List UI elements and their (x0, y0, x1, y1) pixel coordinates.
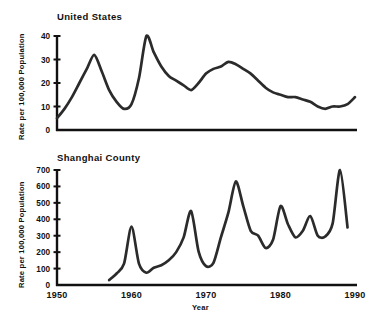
x-tick-label: 1950 (46, 290, 67, 300)
y-tick-label: 100 (20, 264, 50, 273)
figure-two-panel-line-chart: United States Rate per 100,000 Populatio… (0, 0, 373, 323)
y-tick-label: 0 (20, 281, 50, 290)
x-tick-label: 1960 (121, 290, 142, 300)
x-tick-label: 1970 (195, 290, 216, 300)
shanghai-plot-area (0, 0, 373, 323)
shanghai-data-line (109, 170, 347, 280)
x-axis-label: Year (192, 303, 209, 312)
y-tick-label: 200 (20, 248, 50, 257)
y-tick-label: 700 (20, 166, 50, 175)
y-tick-label: 600 (20, 182, 50, 191)
y-tick-label: 300 (20, 231, 50, 240)
x-tick-label: 1990 (344, 290, 365, 300)
y-tick-label: 400 (20, 215, 50, 224)
y-tick-label: 500 (20, 198, 50, 207)
x-tick-label: 1980 (270, 290, 291, 300)
